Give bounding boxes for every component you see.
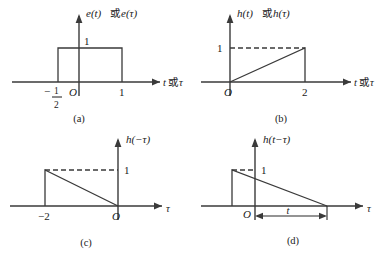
ylabel-c: h(−τ) <box>126 133 151 146</box>
xlabel-b-fn1: t <box>354 77 358 88</box>
ylabel-a-fn1: e(t) <box>86 7 102 20</box>
ylabel-b-fn2: h(τ) <box>273 7 290 20</box>
ytick-one-d: 1 <box>261 164 267 176</box>
dimension-arrow-left-d <box>255 213 263 219</box>
y-axis-arrow-c <box>115 138 122 147</box>
xlabel-b-cjk: 或 <box>359 77 370 88</box>
xlabel-a-fn2: τ <box>179 77 184 88</box>
xtick-one-a: 1 <box>119 86 125 98</box>
caption-c: (c) <box>80 237 92 249</box>
xtick-two-b: 2 <box>302 86 308 98</box>
ylabel-b-fn1: h(t) <box>237 7 253 20</box>
dimension-arrow-right-d <box>319 213 327 219</box>
caption-a: (a) <box>73 113 85 125</box>
panel-b: h(t) 或 h(τ) t 或 τ 1 O 2 (b) <box>193 0 386 128</box>
x-axis-arrow-a <box>152 79 160 86</box>
x-axis-arrow-c <box>154 203 162 210</box>
x-axis-arrow-b <box>343 79 351 86</box>
xtick-minus-half-denominator-a: 2 <box>54 100 59 110</box>
pulse-waveform-a <box>58 48 122 82</box>
ytick-one-b: 1 <box>217 42 223 54</box>
origin-label-b: O <box>224 86 232 98</box>
ylabel-a-cjk: 或 <box>110 8 121 19</box>
ramp-waveform-b <box>230 48 305 82</box>
ylabel-b-cjk: 或 <box>262 8 273 19</box>
ytick-one-c: 1 <box>124 164 130 176</box>
origin-label-c: O <box>112 210 120 222</box>
xtick-minus-half-sign-a: − <box>44 85 50 97</box>
ylabel-d: h(t−τ) <box>263 133 291 146</box>
x-axis-arrow-d <box>355 203 363 210</box>
origin-label-d: O <box>243 208 251 220</box>
xlabel-a-fn1: t <box>163 77 167 88</box>
y-axis-arrow-a <box>76 14 83 23</box>
xlabel-b-fn2: τ <box>370 77 375 88</box>
caption-d: (d) <box>287 235 300 247</box>
y-axis-arrow-d <box>252 138 259 147</box>
xtick-minus-half-numerator-a: 1 <box>54 86 59 96</box>
panel-a: e(t) 或 e(τ) t 或 τ 1 O 1 − 1 2 (a) <box>0 0 193 128</box>
ylabel-a-fn2: e(τ) <box>121 7 137 20</box>
ramp-waveform-c <box>45 170 118 206</box>
panel-d: h(t−τ) τ 1 O t (d) <box>193 128 386 255</box>
origin-label-a: O <box>69 86 77 98</box>
caption-b: (b) <box>275 113 288 125</box>
panel-c: h(−τ) τ 1 O −2 (c) <box>0 128 193 255</box>
xtick-minus-two-c: −2 <box>38 210 50 222</box>
ylabel-value-one-a: 1 <box>84 35 90 47</box>
y-axis-arrow-b <box>227 14 234 23</box>
xlabel-a-cjk: 或 <box>168 77 179 88</box>
figure-root: e(t) 或 e(τ) t 或 τ 1 O 1 − 1 2 (a) <box>0 0 386 255</box>
ramp-waveform-d <box>232 170 327 206</box>
xlabel-d: τ <box>367 203 372 214</box>
xlabel-c: τ <box>166 203 171 214</box>
